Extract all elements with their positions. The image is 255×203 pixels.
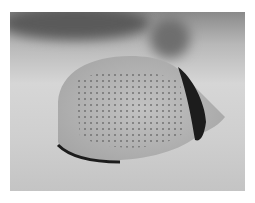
fish-illustration	[10, 12, 245, 191]
fish-photo	[10, 12, 245, 191]
